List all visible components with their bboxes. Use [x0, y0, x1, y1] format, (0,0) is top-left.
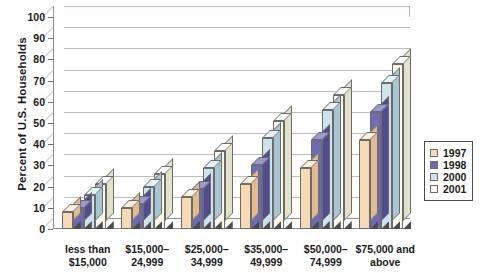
x-axis-label-3: $35,000– 49,999 — [244, 243, 288, 268]
legend-swatch-icon — [430, 149, 438, 157]
y-axis-tick-label: 60 — [33, 97, 45, 108]
y-axis-tick — [48, 165, 53, 166]
y-axis-tick-label: 90 — [33, 33, 45, 44]
bar-1997-3[interactable] — [240, 184, 251, 229]
y-axis-tick-label: 0 — [39, 224, 45, 235]
legend-label: 2001 — [443, 184, 466, 195]
legend-swatch-icon — [430, 161, 438, 169]
bar-group — [121, 17, 165, 229]
legend-label: 1997 — [443, 148, 466, 159]
y-axis-tick-label: 30 — [33, 160, 45, 171]
legend-item-1997[interactable]: 1997 — [430, 148, 466, 159]
x-axis-label-1: $15,000– 24,999 — [125, 243, 169, 268]
gridline — [64, 218, 410, 219]
y-axis-tick — [48, 38, 53, 39]
gridline — [64, 133, 410, 134]
y-axis-tick — [48, 17, 53, 18]
plot-area: 0102030405060708090100 — [53, 17, 410, 229]
bar-side-face — [381, 96, 389, 221]
chart-depth-edge — [53, 6, 410, 17]
y-axis-tick-label: 100 — [27, 12, 45, 23]
y-axis-tick-label: 20 — [33, 181, 45, 192]
gridline — [64, 197, 410, 198]
bar-front-face — [62, 212, 73, 229]
bar-side-face — [284, 105, 292, 221]
bar-chart: Percent of U.S. Households 0102030405060… — [0, 0, 493, 273]
y-axis-tick — [48, 187, 53, 188]
gridline — [64, 112, 410, 113]
bar-group — [359, 17, 403, 229]
y-axis-tick-label: 40 — [33, 139, 45, 150]
y-axis-tick — [48, 229, 53, 230]
x-axis-label-2: $25,000– 34,999 — [185, 243, 229, 268]
bar-front-face — [121, 208, 132, 229]
bar-1997-1[interactable] — [121, 208, 132, 229]
legend-item-2000[interactable]: 2000 — [430, 172, 466, 183]
bar-side-face — [203, 173, 211, 221]
y-axis-tick — [48, 59, 53, 60]
legend-label: 1998 — [443, 160, 466, 171]
bar-1997-4[interactable] — [300, 168, 311, 229]
y-axis-tick-label: 50 — [33, 118, 45, 129]
legend-swatch-icon — [430, 173, 438, 181]
bar-front-face — [300, 168, 311, 229]
bar-side-face — [273, 122, 281, 221]
gridline — [64, 6, 410, 7]
y-axis-tick — [48, 144, 53, 145]
y-axis-tick-label: 80 — [33, 54, 45, 65]
y-axis-tick-label: 70 — [33, 75, 45, 86]
legend-label: 2000 — [443, 172, 466, 183]
gridline — [64, 154, 410, 155]
bar-front-face — [359, 140, 370, 229]
y-axis-tick — [48, 123, 53, 124]
y-axis-tick — [48, 102, 53, 103]
gridline — [64, 70, 410, 71]
legend-swatch-icon — [430, 185, 438, 193]
gridline — [64, 48, 410, 49]
gridline — [64, 27, 410, 28]
bar-side-face — [344, 79, 352, 221]
bar-group — [240, 17, 284, 229]
bar-side-face — [333, 94, 341, 221]
y-axis-tick — [48, 208, 53, 209]
x-axis-label-5: $75,000 and above — [355, 243, 415, 268]
x-axis-label-4: $50,000– 74,999 — [304, 243, 348, 268]
bar-front-face — [240, 184, 251, 229]
chart-legend: 1997199820002001 — [424, 141, 473, 201]
bar-side-face — [392, 67, 400, 221]
x-axis-label-0: less than $15,000 — [65, 243, 111, 268]
bar-1997-5[interactable] — [359, 140, 370, 229]
legend-item-2001[interactable]: 2001 — [430, 184, 466, 195]
bar-group — [62, 17, 106, 229]
y-axis-tick-label: 10 — [33, 203, 45, 214]
bar-group — [181, 17, 225, 229]
bar-1997-2[interactable] — [181, 197, 192, 229]
bar-1997-0[interactable] — [62, 212, 73, 229]
bar-side-face — [403, 48, 411, 221]
y-axis-title: Percent of U.S. Households — [16, 14, 28, 214]
gridline — [64, 176, 410, 177]
legend-item-1998[interactable]: 1998 — [430, 160, 466, 171]
y-axis-tick — [48, 81, 53, 82]
bar-group — [300, 17, 344, 229]
gridline — [64, 91, 410, 92]
bar-front-face — [181, 197, 192, 229]
